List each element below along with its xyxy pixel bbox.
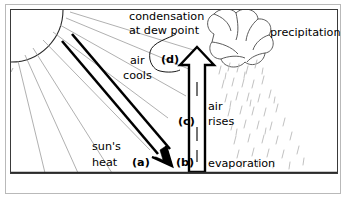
label-suns: sun's xyxy=(92,141,121,154)
label-cools: cools xyxy=(123,70,152,83)
marker-d: (d) xyxy=(161,54,179,67)
label-air-cools-air: air xyxy=(130,55,145,68)
marker-a: (a) xyxy=(132,157,150,170)
label-heat: heat xyxy=(92,157,117,170)
label-evaporation: evaporation xyxy=(208,158,275,171)
label-rises: rises xyxy=(208,116,234,129)
water-cycle-diagram: condensation at dew point precipitation … xyxy=(0,0,348,199)
marker-b: (b) xyxy=(176,157,194,170)
label-air-rises-air: air xyxy=(208,101,223,114)
label-condensation: condensation xyxy=(129,11,204,24)
label-precipitation: precipitation xyxy=(270,27,340,40)
label-at-dew-point: at dew point xyxy=(129,25,199,38)
marker-c: (c) xyxy=(178,116,195,129)
diagram-canvas: condensation at dew point precipitation … xyxy=(0,0,348,199)
